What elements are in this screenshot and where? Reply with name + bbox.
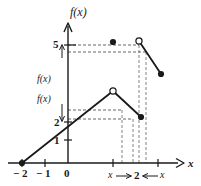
figure-canvas: f(x) x 5 2 1 f(x) f(x) − 2 − 1 0 2 x x bbox=[0, 0, 201, 186]
point-filled-origin-left bbox=[19, 160, 25, 166]
point-open-lower-peak bbox=[110, 88, 116, 94]
point-filled-upper-isolated bbox=[110, 39, 116, 45]
y-tick-label-2: 2 bbox=[54, 117, 60, 128]
point-filled-upper-right bbox=[158, 71, 164, 77]
x-tick-label-2: 2 bbox=[134, 170, 140, 181]
y-annotation-upper-fx: f(x) bbox=[37, 74, 51, 84]
point-open-upper-left bbox=[136, 38, 142, 44]
y-tick-label-5: 5 bbox=[53, 39, 59, 50]
guide-lines bbox=[68, 45, 146, 119]
y-axis-label: f(x) bbox=[70, 6, 87, 18]
x-tick-label-neg2: − 2 bbox=[13, 168, 28, 179]
x-tick-label-neg1: − 1 bbox=[36, 168, 51, 179]
x-annotation-left: x bbox=[108, 170, 112, 180]
x-annotation-right: x bbox=[160, 170, 164, 180]
x-axis-label: x bbox=[188, 158, 194, 169]
y-approach-arrows bbox=[60, 45, 65, 122]
x-tick-label-0: 0 bbox=[64, 168, 70, 179]
guide-verticals bbox=[122, 45, 146, 163]
y-annotation-lower-fx: f(x) bbox=[37, 94, 51, 104]
graph-svg bbox=[0, 0, 201, 186]
point-filled-lower-right bbox=[138, 114, 144, 120]
curve-lower-falling bbox=[113, 91, 141, 117]
y-tick-label-1: 1 bbox=[54, 135, 60, 146]
curve-upper-falling bbox=[139, 41, 161, 74]
